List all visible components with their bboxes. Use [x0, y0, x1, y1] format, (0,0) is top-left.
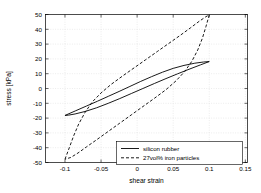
- legend-label-iron-particles: 27vol% iron particles: [143, 154, 199, 161]
- chart-legend: silicon rubber 27vol% iron particles: [117, 142, 243, 165]
- y-tick-label: -40: [33, 144, 43, 151]
- x-axis-title: shear strain: [129, 177, 164, 184]
- y-tick-label: 20: [35, 55, 42, 62]
- legend-label-silicon-rubber: silicon rubber: [143, 145, 179, 152]
- x-tick-label: 0.05: [167, 165, 180, 172]
- y-tick-label: 10: [35, 70, 42, 77]
- y-tick-label: 50: [35, 11, 42, 18]
- y-tick-label: 0: [39, 85, 43, 92]
- y-tick-label: -20: [33, 114, 43, 121]
- x-tick-label: 0.1: [205, 165, 214, 172]
- stress-strain-hysteresis-chart: -50-40-30-20-1001020304050 -0.1-0.0500.0…: [0, 0, 261, 193]
- y-tick-label: -10: [33, 100, 43, 107]
- x-tick-label: -0.1: [60, 165, 71, 172]
- y-tick-label: -30: [33, 129, 43, 136]
- x-tick-label: 0: [135, 165, 139, 172]
- x-tick-label: -0.05: [94, 165, 109, 172]
- chart-figure: -50-40-30-20-1001020304050 -0.1-0.0500.0…: [0, 0, 261, 193]
- x-tick-label: 0.15: [239, 165, 252, 172]
- y-tick-label: -50: [33, 159, 43, 166]
- y-tick-label: 40: [35, 26, 42, 33]
- y-axis-title: stress [kPa]: [5, 71, 13, 106]
- y-tick-label: 30: [35, 40, 42, 47]
